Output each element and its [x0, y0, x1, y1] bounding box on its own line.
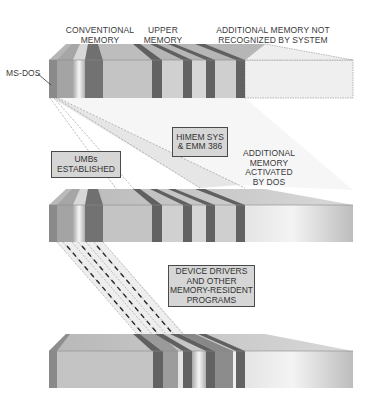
- box-device-drivers: DEVICE DRIVERS AND OTHER MEMORY-RESIDENT…: [168, 265, 255, 307]
- label-line: RECOGNIZED BY SYSTEM: [212, 36, 334, 46]
- memory-bar-after-drivers: [49, 334, 353, 388]
- box-umbs-established: UMBs ESTABLISHED: [51, 151, 121, 178]
- box-line: & EMM 386: [173, 142, 227, 152]
- label-line: MEMORY: [140, 36, 186, 46]
- box-line: ESTABLISHED: [52, 165, 120, 175]
- memory-diagram-graphic: [0, 0, 376, 407]
- label-msdos: MS-DOS: [6, 69, 40, 79]
- memory-bar-before: [49, 44, 353, 98]
- label-line: MEMORY: [62, 36, 138, 46]
- box-himem-emm386: HIMEM SYS & EMM 386: [172, 127, 228, 157]
- label-upper-memory: UPPER MEMORY: [140, 26, 186, 45]
- label-line: BY DOS: [240, 178, 298, 188]
- label-additional-activated: ADDITIONAL MEMORY ACTIVATED BY DOS: [240, 149, 298, 187]
- label-additional-not-recognized: ADDITIONAL MEMORY NOT RECOGNIZED BY SYST…: [212, 26, 334, 45]
- box-line: PROGRAMS: [169, 296, 254, 306]
- memory-bar-after-himem: [49, 189, 353, 242]
- label-conventional-memory: CONVENTIONAL MEMORY: [62, 26, 138, 45]
